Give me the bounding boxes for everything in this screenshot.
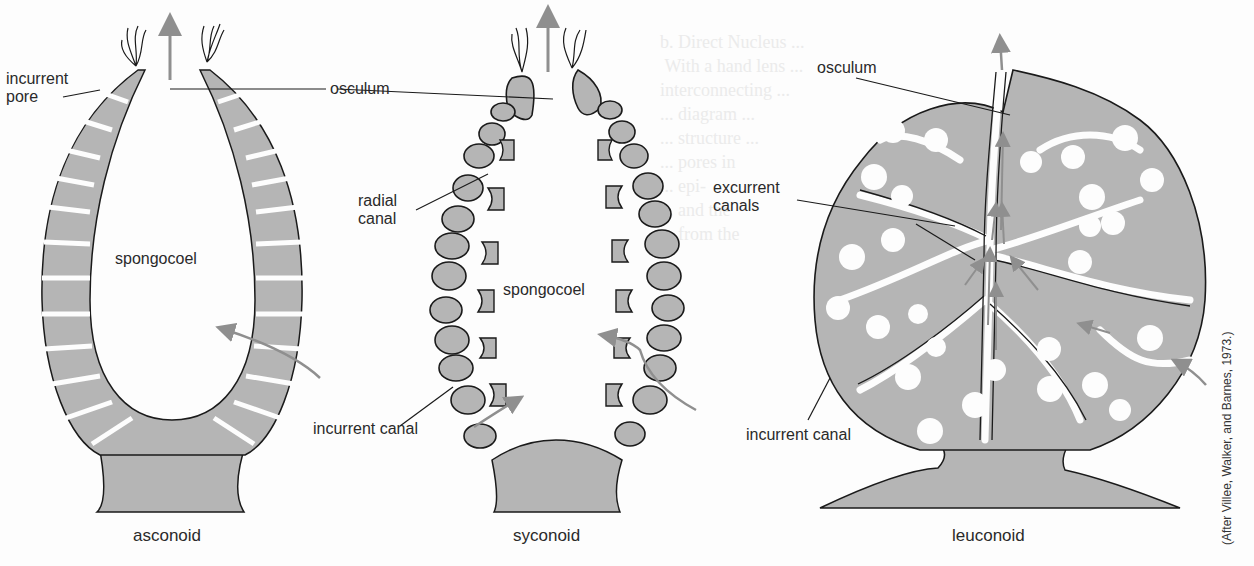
label-text: radial <box>358 192 397 210</box>
label-text: canals <box>713 197 780 215</box>
sponge-body-plans-diagram <box>0 0 1254 566</box>
leuconoid-diagram <box>797 38 1206 508</box>
label-text: incurrent <box>6 70 68 88</box>
label-text: excurrent <box>713 179 780 197</box>
label-text: pore <box>6 88 68 106</box>
label-spongocoel-asconoid: spongocoel <box>115 250 197 268</box>
label-excurrent-canals: excurrent canals <box>713 179 780 215</box>
label-incurrent-canal-syconoid: incurrent canal <box>313 420 418 438</box>
label-osculum-asconoid-syconoid: osculum <box>330 80 390 98</box>
label-osculum-leuconoid: osculum <box>817 59 877 77</box>
label-text: canal <box>358 210 397 228</box>
label-incurrent-canal-leuconoid: incurrent canal <box>746 426 851 444</box>
figure-credit: (After Villee, Walker, and Barnes, 1973.… <box>1220 332 1234 545</box>
caption-syconoid: syconoid <box>513 526 580 546</box>
caption-leuconoid: leuconoid <box>952 526 1025 546</box>
label-incurrent-pore: incurrent pore <box>6 70 68 106</box>
label-spongocoel-syconoid: spongocoel <box>503 281 585 299</box>
caption-asconoid: asconoid <box>133 526 201 546</box>
label-radial-canal: radial canal <box>358 192 397 228</box>
